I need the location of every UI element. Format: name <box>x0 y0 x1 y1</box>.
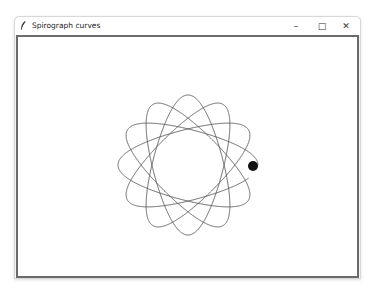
title-bar[interactable]: Spirograph curves – □ ✕ <box>15 17 360 35</box>
close-button[interactable]: ✕ <box>334 17 358 35</box>
feather-icon <box>20 21 26 31</box>
window-title: Spirograph curves <box>32 20 100 32</box>
maximize-button[interactable]: □ <box>310 17 334 35</box>
drawing-canvas[interactable] <box>16 35 359 278</box>
minimize-button[interactable]: – <box>284 17 308 35</box>
app-window: Spirograph curves – □ ✕ <box>14 16 361 279</box>
